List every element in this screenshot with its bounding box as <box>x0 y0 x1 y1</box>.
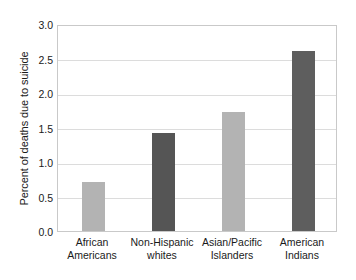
x-tick-label-line: African <box>76 236 109 248</box>
x-tick-label: Non-Hispanicwhites <box>127 236 197 262</box>
x-tick-label-line: Indians <box>267 249 337 262</box>
x-tick-label-line: American <box>280 236 324 248</box>
bar <box>292 51 315 231</box>
y-tick-label: 2.5 <box>27 54 53 66</box>
x-tick-label-line: Non-Hispanic <box>130 236 193 248</box>
y-tick-label: 3.0 <box>27 19 53 31</box>
x-tick-label: AfricanAmericans <box>57 236 127 262</box>
x-tick-label-line: whites <box>127 249 197 262</box>
y-tick-label: 0.5 <box>27 192 53 204</box>
x-tick-label-line: Islanders <box>197 249 267 262</box>
bar <box>82 182 105 231</box>
x-axis-tick-labels: AfricanAmericansNon-HispanicwhitesAsian/… <box>57 236 337 276</box>
y-tick-label: 1.5 <box>27 123 53 135</box>
x-tick-label: AmericanIndians <box>267 236 337 262</box>
bar <box>152 133 175 231</box>
y-tick-label: 1.0 <box>27 157 53 169</box>
bar-chart-figure: Percent of deaths due to suicide 0.00.51… <box>0 0 356 280</box>
x-tick-label-line: Americans <box>57 249 127 262</box>
plot-area <box>57 25 337 232</box>
bar <box>222 112 245 231</box>
x-tick-label-line: Asian/Pacific <box>202 236 262 248</box>
y-axis-tick-labels: 0.00.51.01.52.02.53.0 <box>21 25 53 232</box>
y-tick-label: 0.0 <box>27 226 53 238</box>
y-tick-label: 2.0 <box>27 88 53 100</box>
x-tick-label: Asian/PacificIslanders <box>197 236 267 262</box>
